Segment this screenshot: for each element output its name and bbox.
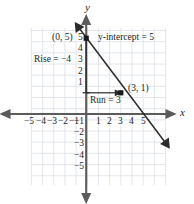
x-axis-label: x [180, 107, 185, 118]
y-tick--5: −5 [74, 162, 84, 172]
y-axis-down-arrow [83, 194, 90, 202]
point-label-3-1: (3, 1) [128, 84, 149, 94]
rise-annotation: Rise = −4 [34, 55, 71, 65]
run-annotation: Run = 3 [90, 96, 121, 106]
x-tick-3: 3 [118, 117, 123, 127]
x-tick--4: −4 [36, 117, 46, 127]
x-tick-1: 1 [96, 117, 101, 127]
y-tick--1: −1 [74, 117, 84, 127]
y-axis-up-arrow [83, 17, 90, 25]
x-tick-2: 2 [107, 117, 112, 127]
x-tick--3: −3 [47, 117, 57, 127]
x-tick--5: −5 [24, 117, 34, 127]
y-tick-2: 2 [78, 67, 83, 77]
x-axis-left-arrow [2, 111, 10, 118]
y-tick--4: −4 [74, 151, 84, 161]
rise-segment [83, 38, 90, 93]
y-tick-5: 5 [78, 33, 83, 43]
graph-canvas: y x −5 −4 −3 −2 −1 1 2 3 4 5 5 4 3 2 1 −… [0, 0, 194, 204]
y-tick--2: −2 [74, 128, 84, 138]
point-label-0-5: (0, 5) [52, 33, 73, 43]
marker-0-5 [84, 36, 89, 41]
y-tick-4: 4 [78, 44, 83, 54]
y-tick-1: 1 [78, 78, 83, 88]
x-tick-4: 4 [129, 117, 134, 127]
x-tick-5: 5 [141, 117, 146, 127]
x-tick--2: −2 [58, 117, 68, 127]
y-tick--3: −3 [74, 139, 84, 149]
grid-lines [31, 28, 165, 185]
y-axis-label: y [85, 2, 90, 13]
y-intercept-annotation: y-intercept = 5 [98, 33, 154, 43]
y-tick-3: 3 [78, 55, 83, 65]
x-axis-right-arrow [167, 111, 175, 118]
